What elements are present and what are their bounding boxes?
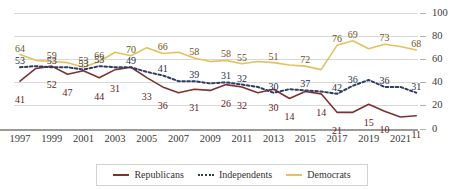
- point-label-rep-20: 21: [332, 126, 342, 136]
- point-label-dem-0: 64: [15, 44, 25, 54]
- y-tick-label-80: 80: [432, 31, 443, 41]
- point-label-ind-14: 32: [237, 74, 247, 84]
- point-label-ind-23: 36: [380, 76, 390, 86]
- legend-item-democrats[interactable]: Democrats: [286, 170, 350, 180]
- legend-item-republicans[interactable]: Republicans: [113, 170, 183, 180]
- legend-line-icon-independents: [198, 174, 214, 176]
- point-label-dem-14: 55: [237, 53, 247, 63]
- x-tick-label-2009: 2009: [193, 133, 227, 145]
- point-label-rep-9: 36: [158, 101, 168, 111]
- point-label-rep-25: 11: [411, 130, 421, 140]
- point-label-dem-23: 73: [380, 33, 390, 43]
- x-tick-label-1999: 1999: [35, 133, 69, 145]
- point-label-rep-19: 14: [316, 108, 326, 118]
- legend-label-democrats: Democrats: [307, 170, 350, 180]
- point-label-dem-11: 58: [189, 47, 199, 57]
- y-tick-label-20: 20: [432, 100, 443, 110]
- point-label-rep-0: 41: [15, 95, 25, 105]
- x-tick-label-2015: 2015: [288, 133, 322, 145]
- point-label-ind-13: 31: [221, 71, 231, 81]
- point-label-rep-13: 26: [221, 99, 231, 109]
- point-label-dem-9: 66: [158, 42, 168, 52]
- point-label-dem-16: 51: [269, 52, 279, 62]
- point-label-dem-21: 69: [348, 30, 358, 40]
- point-label-dem-5: 66: [94, 51, 104, 61]
- point-label-rep-17: 14: [284, 112, 294, 122]
- point-label-rep-6: 31: [110, 84, 120, 94]
- y-tick-mark-20: [420, 105, 426, 106]
- legend-line-icon-republicans: [113, 174, 129, 176]
- point-label-rep-5: 44: [94, 92, 104, 102]
- point-label-dem-4: 53: [78, 56, 88, 66]
- y-tick-label-40: 40: [432, 77, 443, 87]
- x-tick-label-2001: 2001: [66, 133, 100, 145]
- point-label-ind-20: 42: [332, 83, 342, 93]
- point-label-ind-21: 36: [348, 75, 358, 85]
- y-tick-mark-100: [420, 13, 426, 14]
- point-label-rep-23: 10: [380, 125, 390, 135]
- point-label-rep-14: 32: [237, 101, 247, 111]
- line-chart: 020406080100 199719992001200320052007200…: [0, 0, 462, 189]
- y-tick-label-60: 60: [432, 54, 443, 64]
- y-tick-mark-60: [420, 59, 426, 60]
- point-label-rep-11: 31: [189, 103, 199, 113]
- x-tick-label-2013: 2013: [257, 133, 291, 145]
- point-label-rep-8: 33: [142, 92, 152, 102]
- point-label-rep-22: 15: [364, 118, 374, 128]
- x-tick-label-2011: 2011: [225, 133, 259, 145]
- legend-label-republicans: Republicans: [134, 170, 183, 180]
- point-label-dem-18: 72: [300, 55, 310, 65]
- chart-legend: Republicans Independents Democrats: [96, 164, 368, 186]
- legend-line-icon-democrats: [286, 174, 302, 176]
- legend-item-independents[interactable]: Independents: [198, 170, 272, 180]
- legend-label-independents: Independents: [219, 170, 272, 180]
- point-label-ind-9: 41: [158, 64, 168, 74]
- x-tick-label-2003: 2003: [98, 133, 132, 145]
- y-tick-mark-80: [420, 36, 426, 37]
- point-label-rep-16: 30: [269, 103, 279, 113]
- x-tick-label-1997: 1997: [3, 133, 37, 145]
- point-label-ind-18: 37: [300, 79, 310, 89]
- point-label-dem-2: 59: [47, 51, 57, 61]
- point-label-dem-13: 58: [221, 49, 231, 59]
- point-label-ind-0: 53: [15, 56, 25, 66]
- point-label-ind-7: 49: [126, 56, 136, 66]
- point-label-dem-25: 68: [411, 39, 421, 49]
- point-label-rep-3: 47: [63, 88, 73, 98]
- point-label-ind-16: 30: [269, 82, 279, 92]
- point-label-rep-2: 52: [47, 80, 57, 90]
- x-tick-label-2005: 2005: [130, 133, 164, 145]
- x-tick-label-2007: 2007: [162, 133, 196, 145]
- point-label-ind-25: 31: [411, 82, 421, 92]
- point-label-ind-11: 39: [189, 70, 199, 80]
- point-label-dem-7: 70: [126, 45, 136, 55]
- y-tick-label-0: 0: [432, 124, 437, 134]
- point-label-dem-20: 76: [332, 34, 342, 44]
- y-tick-label-100: 100: [432, 8, 448, 18]
